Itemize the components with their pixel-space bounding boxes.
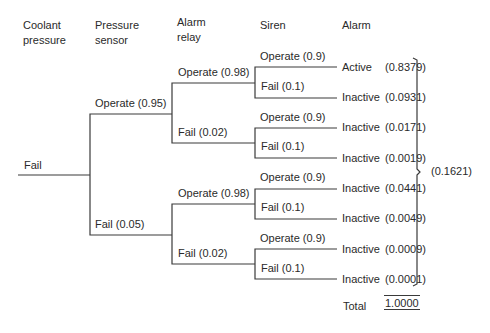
header-coolant-pressure: Coolant pressure bbox=[23, 18, 66, 48]
pressure-sensor-operate-label: Operate (0.95) bbox=[95, 97, 167, 110]
siren-fail-label-3: Fail (0.1) bbox=[261, 201, 304, 214]
pressure-sensor-fail-label: Fail (0.05) bbox=[95, 218, 145, 231]
header-alarm-relay: Alarm relay bbox=[177, 15, 206, 45]
outcome-state-2: Inactive bbox=[342, 91, 380, 104]
outcome-prob-2: (0.0931) bbox=[385, 91, 426, 104]
outcome-prob-8: (0.0001) bbox=[385, 273, 426, 286]
outcome-prob-7: (0.0009) bbox=[385, 243, 426, 256]
alarm-relay-fail-label-1: Fail (0.02) bbox=[178, 126, 228, 139]
alarm-relay-operate-label-1: Operate (0.98) bbox=[178, 66, 250, 79]
header-alarm: Alarm bbox=[342, 18, 371, 33]
outcome-state-3: Inactive bbox=[342, 121, 380, 134]
outcome-prob-5: (0.0441) bbox=[385, 182, 426, 195]
siren-operate-label-4: Operate (0.9) bbox=[260, 232, 325, 245]
outcome-state-8: Inactive bbox=[342, 273, 380, 286]
siren-fail-label-2: Fail (0.1) bbox=[261, 140, 304, 153]
siren-fail-label-4: Fail (0.1) bbox=[261, 262, 304, 275]
total-label: Total bbox=[343, 300, 366, 313]
header-pressure-sensor: Pressure sensor bbox=[95, 18, 139, 48]
outcome-state-4: Inactive bbox=[342, 152, 380, 165]
siren-fail-label-1: Fail (0.1) bbox=[261, 80, 304, 93]
header-siren: Siren bbox=[260, 18, 286, 33]
siren-operate-label-2: Operate (0.9) bbox=[260, 111, 325, 124]
total-value: 1.0000 bbox=[384, 297, 420, 310]
root-label: Fail bbox=[24, 159, 42, 172]
outcome-prob-1: (0.8379) bbox=[385, 61, 426, 74]
outcome-state-6: Inactive bbox=[342, 212, 380, 225]
outcome-state-7: Inactive bbox=[342, 243, 380, 256]
siren-operate-label-1: Operate (0.9) bbox=[260, 50, 325, 63]
outcome-state-1: Active bbox=[342, 61, 372, 74]
pressure-sensor-split bbox=[90, 114, 172, 235]
outcome-prob-6: (0.0049) bbox=[385, 212, 426, 225]
alarm-relay-fail-label-2: Fail (0.02) bbox=[178, 247, 228, 260]
inactive-sum-label: (0.1621) bbox=[431, 165, 472, 178]
alarm-relay-operate-label-2: Operate (0.98) bbox=[178, 187, 250, 200]
outcome-state-5: Inactive bbox=[342, 182, 380, 195]
outcome-prob-4: (0.0019) bbox=[385, 152, 426, 165]
outcome-prob-3: (0.0171) bbox=[385, 121, 426, 134]
siren-operate-label-3: Operate (0.9) bbox=[260, 171, 325, 184]
total-value-text: 1.0000 bbox=[384, 295, 420, 310]
